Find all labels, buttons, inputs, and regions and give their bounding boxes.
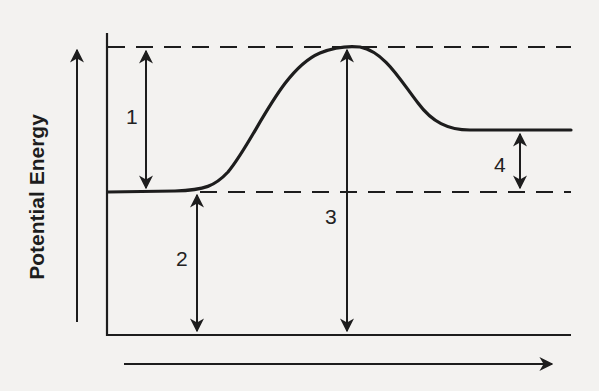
label-3: 3 bbox=[325, 205, 337, 228]
y-axis-title: Potential Energy bbox=[25, 114, 48, 280]
label-1: 1 bbox=[126, 105, 138, 128]
label-4: 4 bbox=[494, 153, 506, 176]
label-2: 2 bbox=[176, 247, 188, 270]
potential-energy-diagram: 1 2 3 4 Potential Energy bbox=[0, 0, 599, 391]
